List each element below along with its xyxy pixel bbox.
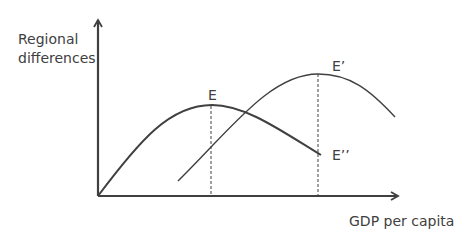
point-label-e: E — [208, 86, 217, 104]
y-axis-label-line2: differences — [18, 49, 96, 67]
x-axis-label: GDP per capita — [349, 212, 454, 230]
point-label-e-prime: E’ — [332, 57, 345, 75]
curve-original — [98, 105, 321, 196]
y-axis-label-line1: Regional — [18, 30, 78, 48]
point-label-e-double-prime: E’’ — [332, 146, 350, 164]
